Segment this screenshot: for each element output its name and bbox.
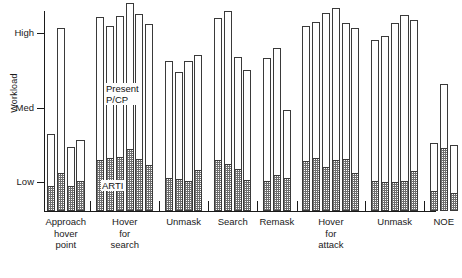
bar-segment-arti <box>175 179 183 211</box>
bar <box>273 48 281 211</box>
bar-segment-arti <box>430 191 438 211</box>
bar-segment-arti <box>273 175 281 211</box>
bar-segment-arti <box>450 193 458 211</box>
bar-segment-arti <box>194 170 202 211</box>
bar-segment-arti <box>224 164 232 211</box>
bar-segment-arti <box>332 160 340 211</box>
bar-segment-arti <box>47 186 55 211</box>
y-tick-mark-med <box>37 108 44 109</box>
bar-segment-arti <box>76 181 84 211</box>
bar <box>243 70 251 211</box>
x-axis-baseline <box>44 211 436 212</box>
x-group-separator <box>208 201 209 211</box>
bar-segment-arti <box>214 160 222 211</box>
bar <box>450 145 458 211</box>
bar <box>430 143 438 211</box>
bar <box>312 22 320 211</box>
x-group-separator <box>297 201 298 211</box>
bar-segment-arti <box>57 173 65 211</box>
bar <box>342 23 350 211</box>
bar <box>214 18 222 211</box>
bar <box>332 8 340 211</box>
bar <box>283 110 291 211</box>
bar <box>234 57 242 211</box>
bar <box>263 58 271 211</box>
bar-segment-arti <box>135 159 143 211</box>
bar <box>135 14 143 211</box>
bar-segment-arti <box>410 171 418 211</box>
bar <box>302 26 310 211</box>
bar <box>371 40 379 211</box>
x-group-separator <box>365 201 366 211</box>
x-group-separator <box>90 201 91 211</box>
bar-segment-arti <box>67 186 75 211</box>
bar-segment-arti <box>381 182 389 211</box>
x-group-separator <box>257 201 258 211</box>
bar-segment-arti <box>234 169 242 211</box>
bar <box>410 20 418 211</box>
bar-segment-arti <box>371 181 379 211</box>
bar <box>194 55 202 211</box>
y-tick-label-high: High <box>0 27 34 38</box>
bar <box>440 84 448 211</box>
bar-segment-arti <box>145 165 153 211</box>
bar <box>351 28 359 211</box>
bar-segment-arti <box>312 158 320 211</box>
bar-segment-arti <box>351 173 359 211</box>
bar <box>57 28 65 211</box>
y-axis-title: Workload <box>9 53 19 133</box>
bar <box>47 134 55 211</box>
bar <box>67 147 75 211</box>
bar-segment-arti <box>440 148 448 211</box>
bar-segment-arti <box>184 181 192 211</box>
y-tick-mark-high <box>37 33 44 34</box>
bar <box>76 140 84 211</box>
y-tick-mark-low <box>37 182 44 183</box>
bar <box>224 11 232 211</box>
bar <box>165 61 173 211</box>
bar <box>126 3 134 211</box>
bar-segment-arti <box>126 149 134 211</box>
x-group-separator <box>159 201 160 211</box>
bar-segment-arti <box>302 161 310 211</box>
bar-segment-arti <box>283 178 291 211</box>
bar-segment-arti <box>263 181 271 211</box>
bar-segment-arti <box>400 181 408 211</box>
bar <box>322 13 330 211</box>
bar <box>391 23 399 211</box>
bar-segment-arti <box>243 180 251 211</box>
bar-segment-arti <box>322 167 330 211</box>
x-group-separator <box>424 201 425 211</box>
y-tick-label-med: Med <box>0 102 34 113</box>
annotation-present-pcp: Present P/CP <box>105 83 140 105</box>
bar <box>145 24 153 211</box>
bar-segment-arti <box>391 182 399 211</box>
bar-segment-arti <box>165 178 173 211</box>
bar-segment-arti <box>342 159 350 211</box>
bar <box>184 61 192 211</box>
annotation-arti: ARTI <box>101 180 124 191</box>
bar <box>400 15 408 211</box>
bar <box>175 72 183 211</box>
y-tick-label-low: Low <box>0 176 34 187</box>
x-group-label-noe-7: NOE <box>407 216 462 228</box>
bar <box>381 36 389 211</box>
